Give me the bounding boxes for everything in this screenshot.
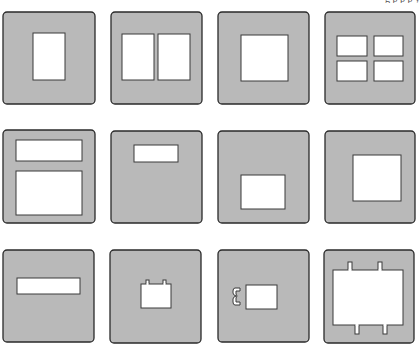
window-opening — [241, 175, 285, 209]
wall-panel — [325, 12, 415, 104]
diagram-low-centered-window — [218, 131, 309, 223]
window-opening — [241, 35, 288, 81]
window-opening — [134, 145, 178, 162]
window-opening — [353, 155, 401, 201]
window-opening — [122, 34, 154, 80]
window-opening — [141, 284, 171, 308]
window-opening — [17, 278, 80, 294]
diagram-two-vertical-windows — [111, 12, 202, 104]
window-opening — [16, 171, 82, 215]
window-opening — [333, 270, 403, 325]
diagram-four-pane-window — [325, 12, 415, 104]
diagram-large-window-with-tabs — [324, 250, 414, 343]
diagram-window-with-top-tabs — [110, 250, 201, 343]
diagram-single-vertical-window — [3, 12, 95, 104]
diagram-stacked-horizontal-windows — [3, 130, 95, 223]
window-opening — [374, 36, 403, 56]
diagram-window-with-side-hook — [218, 250, 309, 342]
window-opening — [337, 36, 367, 56]
diagram-slot-window — [3, 250, 94, 342]
diagram-small-high-window — [111, 131, 202, 223]
wall-panel — [3, 250, 94, 342]
window-opening — [337, 61, 367, 81]
window-opening — [33, 33, 65, 80]
window-opening — [246, 285, 277, 309]
diagram-grid — [0, 0, 420, 353]
diagram-single-square-window — [218, 12, 309, 104]
diagram-offset-square-window — [325, 131, 415, 223]
window-opening — [374, 61, 403, 81]
window-opening — [16, 140, 82, 161]
window-opening — [158, 34, 190, 80]
